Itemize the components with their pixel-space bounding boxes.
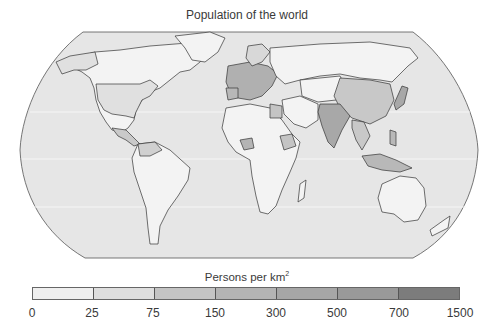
legend-tick: 0 [29,306,36,320]
iberia [226,88,238,100]
legend-tick: 700 [389,306,409,320]
legend-title: Persons per km2 [0,270,494,283]
world-map [0,0,494,335]
legend-bin-300-500 [277,288,338,299]
legend-tick: 300 [266,306,286,320]
legend-tick: 150 [205,306,225,320]
legend-bin-25-75 [94,288,155,299]
legend-tick: 75 [146,306,159,320]
legend-tick: 500 [327,306,347,320]
philippines [390,130,396,146]
egypt [270,104,282,118]
legend-bin-700-1500 [399,288,459,299]
legend-bin-150-300 [216,288,277,299]
legend-bin-500-700 [338,288,399,299]
legend-bin-75-150 [155,288,216,299]
legend-tick: 1500 [447,306,474,320]
legend-bin-0-25 [33,288,94,299]
legend-color-scale [32,287,460,300]
legend-tick: 25 [85,306,98,320]
